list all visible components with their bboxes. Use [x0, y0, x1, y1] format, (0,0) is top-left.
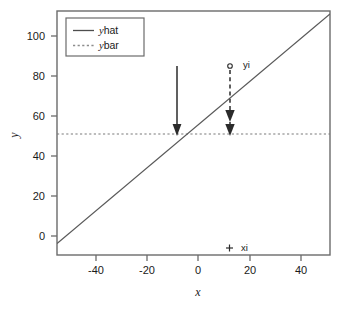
x-tick-label-neg40: -40 — [88, 264, 104, 276]
plot-canvas: 0 20 40 60 80 100 -40 -20 0 20 40 x y — [0, 0, 348, 312]
legend-label-ybar: ybar — [98, 39, 119, 51]
y-axis-title: y — [7, 132, 21, 139]
regression-decomposition-chart: 0 20 40 60 80 100 -40 -20 0 20 40 x y — [0, 0, 348, 312]
legend-label-yhat-suffix: hat — [104, 24, 119, 36]
y-tick-label-100: 100 — [27, 30, 45, 42]
y-axis-ticks — [51, 36, 57, 236]
legend: yhat ybar — [66, 18, 144, 56]
xi-rug-plus-marker — [226, 245, 233, 252]
x-tick-label-20: 20 — [244, 264, 256, 276]
y-tick-label-40: 40 — [33, 150, 45, 162]
x-tick-label-neg20: -20 — [139, 264, 155, 276]
yi-observation-point — [228, 64, 233, 69]
x-axis-ticks — [96, 255, 301, 261]
legend-label-yhat: yhat — [98, 24, 118, 36]
total-deviation-arrow — [173, 66, 182, 136]
y-tick-label-0: 0 — [39, 230, 45, 242]
x-tick-label-40: 40 — [295, 264, 307, 276]
x-axis-title: x — [194, 285, 201, 299]
y-tick-label-80: 80 — [33, 70, 45, 82]
y-tick-label-60: 60 — [33, 110, 45, 122]
y-tick-label-20: 20 — [33, 190, 45, 202]
x-tick-label-0: 0 — [195, 264, 201, 276]
xi-label: xi — [241, 242, 248, 253]
legend-label-ybar-suffix: bar — [104, 39, 120, 51]
yi-label: yi — [243, 59, 250, 70]
